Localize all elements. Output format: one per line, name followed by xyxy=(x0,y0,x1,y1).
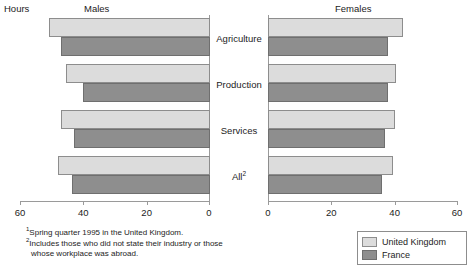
bar-males-services-france xyxy=(74,129,210,148)
bar-males-production-uk xyxy=(66,64,210,83)
bar-females-production-france xyxy=(268,83,388,102)
footnote-line: 2Includes those who did not state their … xyxy=(26,239,326,250)
axis-tick-label: 40 xyxy=(389,207,400,218)
bar-females-agriculture-uk xyxy=(268,18,403,37)
bar-males-production-france xyxy=(83,83,210,102)
bar-males-all-france xyxy=(72,175,210,194)
axis-tick xyxy=(268,201,269,205)
footnote-marker: 2 xyxy=(26,237,29,243)
legend-item-france: France xyxy=(362,248,462,261)
bar-group-males-all xyxy=(20,156,210,194)
axis-tick xyxy=(209,201,210,205)
axis-tick-label: 0 xyxy=(265,207,270,218)
bar-males-agriculture-france xyxy=(61,37,210,56)
legend-label-united-kingdom: United Kingdom xyxy=(382,237,446,247)
bar-females-agriculture-france xyxy=(268,37,388,56)
axis-tick xyxy=(331,201,332,205)
axis-tick-label: 20 xyxy=(141,207,152,218)
bar-group-females-production xyxy=(268,64,458,102)
population-pyramid-chart: Hours Males Females xyxy=(0,0,474,280)
bar-group-females-agriculture xyxy=(268,18,458,56)
axis-tick xyxy=(20,201,21,205)
bar-males-services-uk xyxy=(61,110,210,129)
bar-females-all-uk xyxy=(268,156,393,175)
legend: United Kingdom France xyxy=(357,231,467,265)
bar-males-all-uk xyxy=(58,156,210,175)
axis-tick xyxy=(457,201,458,205)
females-panel-title: Females xyxy=(335,3,371,14)
axis-tick-label: 20 xyxy=(326,207,337,218)
bar-females-services-uk xyxy=(268,110,395,129)
axis-tick-label: 60 xyxy=(452,207,463,218)
hours-axis-title: Hours xyxy=(4,3,29,14)
category-label-production: Production xyxy=(210,79,268,90)
legend-swatch-icon-france xyxy=(362,250,377,260)
females-plot-area xyxy=(268,15,458,201)
males-panel-title: Males xyxy=(84,3,109,14)
legend-label-france: France xyxy=(382,250,410,260)
males-plot-area xyxy=(20,15,210,201)
footnote-marker: 1 xyxy=(26,226,29,232)
bar-group-males-agriculture xyxy=(20,18,210,56)
axis-tick-label: 0 xyxy=(206,207,211,218)
bar-group-females-services xyxy=(268,110,458,148)
bar-group-females-all xyxy=(268,156,458,194)
bar-group-males-production xyxy=(20,64,210,102)
category-label-services: Services xyxy=(210,125,268,136)
bar-group-males-services xyxy=(20,110,210,148)
axis-tick xyxy=(395,201,396,205)
axis-tick-label: 60 xyxy=(15,207,26,218)
axis-tick xyxy=(147,201,148,205)
category-label-agriculture: Agriculture xyxy=(210,33,268,44)
footnotes: 1Spring quarter 1995 in the United Kingd… xyxy=(26,228,326,260)
females-value-axis: 0204060 xyxy=(268,201,458,202)
axis-tick-label: 40 xyxy=(78,207,89,218)
legend-swatch-icon-united-kingdom xyxy=(362,237,377,247)
category-label-all: All2 xyxy=(210,171,268,182)
footnote-line: 1Spring quarter 1995 in the United Kingd… xyxy=(26,228,326,239)
axis-tick xyxy=(83,201,84,205)
category-label-superscript: 2 xyxy=(242,170,246,177)
bar-females-all-france xyxy=(268,175,382,194)
bar-males-agriculture-uk xyxy=(49,18,211,37)
footnote-line: whose workplace was abroad. xyxy=(26,249,326,260)
bar-females-production-uk xyxy=(268,64,396,83)
males-value-axis: 6040200 xyxy=(20,201,210,202)
bar-females-services-france xyxy=(268,129,385,148)
legend-item-united-kingdom: United Kingdom xyxy=(362,235,462,248)
